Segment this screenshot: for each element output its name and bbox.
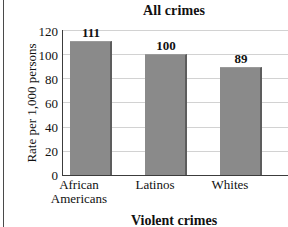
y-tick-label: 100 <box>24 49 58 62</box>
bar-whites <box>220 67 262 175</box>
x-category-label-line: Americans <box>49 192 109 206</box>
x-category-label-line: Whites <box>200 178 260 192</box>
y-tick-label: 120 <box>24 25 58 38</box>
x-category-label-latinos: Latinos <box>125 178 185 192</box>
y-tick-label: 20 <box>24 145 58 158</box>
figure-panel: All crimes Rate per 1,000 persons 120 10… <box>0 0 288 227</box>
x-category-label-line: African <box>49 178 109 192</box>
bar-latinos <box>145 54 187 175</box>
x-axis-line <box>62 175 288 176</box>
plot-area: 111 100 89 <box>62 30 288 175</box>
x-category-label-whites: Whites <box>200 178 260 192</box>
bar-value-label-whites: 89 <box>220 52 262 65</box>
y-axis-line <box>62 30 63 176</box>
x-category-label-african-americans: African Americans <box>49 178 109 206</box>
x-category-label-line: Latinos <box>125 178 185 192</box>
y-tick-label: 40 <box>24 121 58 134</box>
chart-title: All crimes <box>104 3 244 19</box>
bar-value-label-latinos: 100 <box>145 39 187 52</box>
next-chart-title-clipped: Violent crimes <box>104 213 244 227</box>
bar-african-americans <box>70 41 112 175</box>
bar-value-label-african-americans: 111 <box>70 26 112 39</box>
y-tick-label: 60 <box>24 97 58 110</box>
y-tick-label: 80 <box>24 73 58 86</box>
page-rule-divider <box>3 0 4 227</box>
